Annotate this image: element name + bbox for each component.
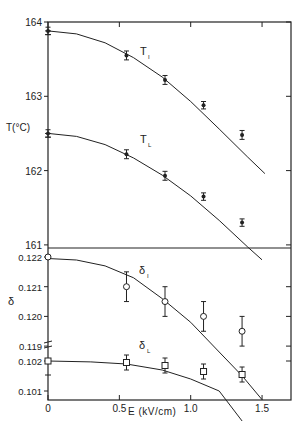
legend-label-TL: T L [140,133,152,148]
y-tick-label: 0.120 [18,311,42,322]
data-point [124,152,128,156]
phase-transition-chart: 1641631621610.1220.1210.1200.1190.1020.1… [0,0,306,422]
svg-text:δ: δ [139,264,145,276]
svg-text:L: L [148,142,152,148]
x-tick-label: 0 [45,403,51,414]
y-tick-label: 163 [25,91,42,102]
x-axis-label: E (kV/cm) [128,406,176,417]
fit-curve-T_I [48,31,265,174]
svg-text:I: I [147,273,149,279]
data-point [240,133,244,137]
fit-curves [48,31,265,421]
legend-label-dL: δ L [139,339,151,354]
svg-text:T: T [140,133,147,145]
fit-curve-δ_I [48,259,262,400]
fit-curve-T_L [48,133,262,259]
data-point [45,358,51,364]
data-point [201,313,207,319]
data-point [46,131,50,135]
axis-ticks [44,22,291,400]
data-point [163,78,167,82]
y-tick-label: 0.122 [18,252,42,263]
svg-text:I: I [148,54,150,60]
y-tick-label: 0.119 [19,341,42,352]
data-point [162,299,168,305]
y-tick-label: 161 [25,240,42,251]
svg-text:δ: δ [139,339,145,351]
data-point [45,254,51,260]
legend-label-TI: T I [140,45,150,60]
y-tick-label: 0.102 [18,356,42,367]
data-point [201,369,207,375]
legend-label-dI: δ I [139,264,149,279]
svg-text:T: T [140,45,147,57]
svg-text:L: L [147,348,151,354]
data-point [239,372,245,378]
data-point [202,195,206,199]
data-point [240,221,244,225]
x-tick-label: 1.0 [184,403,198,414]
x-tick-label: 0.5 [112,403,126,414]
data-point [162,363,168,369]
bottom-y-axis-label: δ [8,295,14,307]
x-tick-label: 1.5 [255,403,269,414]
y-tick-label: 164 [25,17,42,28]
plot-border [48,22,291,400]
data-point [202,103,206,107]
plot-frame [48,22,291,400]
data-point [46,29,50,33]
y-tick-label: 162 [25,166,42,177]
y-tick-label: 0.121 [18,282,42,293]
top-y-axis-label: T(°C) [6,122,30,133]
data-point [123,284,129,290]
tick-labels: 1641631621610.1220.1210.1200.1190.1020.1… [18,17,269,414]
data-points [45,27,245,382]
data-point [239,328,245,334]
y-tick-label: 0.101 [18,386,42,397]
data-point [163,174,167,178]
data-point [123,360,129,366]
data-point [124,53,128,57]
